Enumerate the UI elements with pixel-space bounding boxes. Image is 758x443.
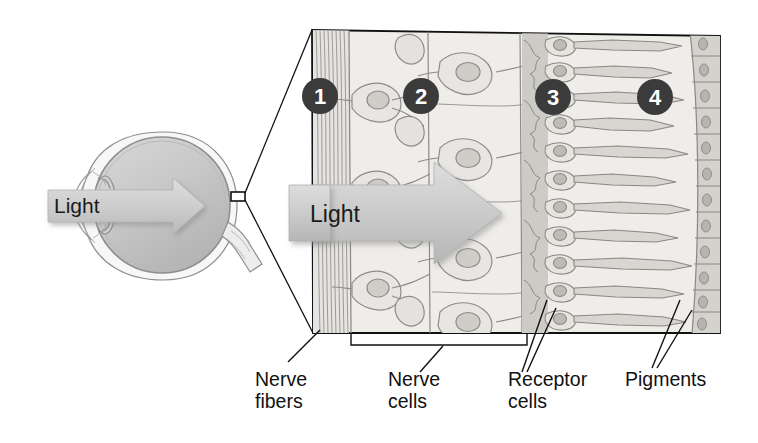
retina-diagram: Light [0, 0, 758, 443]
label-pigments: Pigments [625, 368, 707, 390]
marker-2: 2 [403, 78, 439, 114]
receptor-cells-line2: cells [508, 390, 547, 412]
nerve-cells-line2: cells [388, 390, 427, 412]
callout-sample-box [231, 192, 245, 201]
figure-canvas: Light [0, 0, 758, 443]
layer-receptor-cells [522, 30, 548, 334]
marker-1: 1 [302, 78, 338, 114]
marker-4-label: 4 [649, 85, 662, 110]
retina-magnified-panel: Light 1 2 3 4 [289, 30, 722, 344]
nerve-fibers-line1: Nerve [255, 368, 307, 390]
nerve-fibers-line2: fibers [255, 390, 303, 412]
label-nerve-fibers: Nerve fibers [255, 368, 307, 412]
marker-2-label: 2 [415, 84, 427, 109]
receptor-cells-line1: Receptor [508, 368, 588, 390]
marker-1-label: 1 [314, 84, 326, 109]
marker-3-label: 3 [547, 85, 559, 110]
light-label-eye: Light [54, 194, 100, 217]
light-label-retina: Light [310, 201, 360, 227]
pigments-line1: Pigments [625, 368, 707, 390]
marker-4: 4 [637, 79, 673, 115]
marker-3: 3 [535, 79, 571, 115]
nerve-cells-line1: Nerve [388, 368, 440, 390]
